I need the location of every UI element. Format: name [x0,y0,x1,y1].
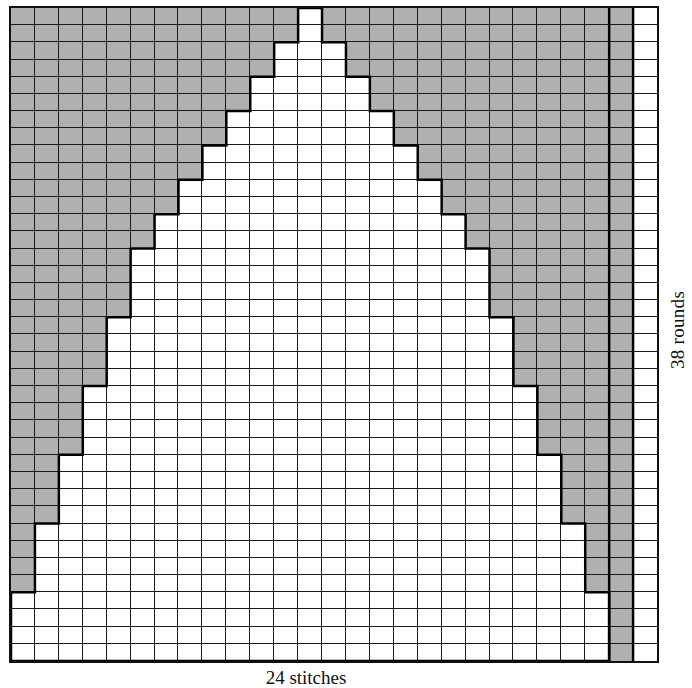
chart-cell-shaded [83,317,107,334]
chart-cell-white [178,317,202,334]
chart-cell-white [322,197,346,214]
chart-cell-white [107,317,131,334]
chart-cell-shaded [609,438,633,455]
chart-cell-shaded [442,94,466,111]
chart-cell-white [537,524,561,541]
chart-cell-shaded [35,25,59,42]
chart-cell-shaded [11,145,35,162]
chart-cell-shaded [585,180,609,197]
chart-cell-white [226,128,250,145]
chart-cell-shaded [107,300,131,317]
chart-cell-white [346,249,370,266]
chart-cell-white [490,489,514,506]
chart-cell-shaded [537,163,561,180]
chart-cell-shaded [202,128,226,145]
chart-cell-white [633,77,657,94]
chart-cell-white [466,438,490,455]
chart-cell-white [202,249,226,266]
chart-cell-white [466,575,490,592]
chart-cell-white [561,524,585,541]
chart-cell-white [155,283,179,300]
chart-cell-white [250,145,274,162]
chart-cell-white [513,627,537,644]
chart-cell-shaded [466,42,490,59]
chart-cell-white [155,214,179,231]
chart-cell-white [322,627,346,644]
chart-cell-shaded [107,163,131,180]
chart-cell-shaded [537,420,561,437]
chart-cell-white [633,472,657,489]
chart-cell-shaded [609,300,633,317]
chart-cell-white [274,249,298,266]
chart-cell-white [226,575,250,592]
chart-cell-white [394,163,418,180]
chart-cell-white [466,420,490,437]
chart-cell-white [322,386,346,403]
chart-cell-shaded [490,249,514,266]
chart-cell-white [250,524,274,541]
chart-cell-white [466,266,490,283]
chart-cell-white [490,317,514,334]
chart-cell-shaded [202,25,226,42]
chart-cell-shaded [59,334,83,351]
chart-cell-white [155,592,179,609]
chart-cell-shaded [561,128,585,145]
chart-cell-white [83,489,107,506]
chart-cell-shaded [609,94,633,111]
chart-cell-white [131,575,155,592]
chart-cell-white [490,438,514,455]
chart-cell-shaded [537,334,561,351]
chart-cell-white [322,266,346,283]
chart-cell-white [394,180,418,197]
chart-cell-white [202,403,226,420]
chart-cell-shaded [83,25,107,42]
chart-cell-shaded [59,60,83,77]
chart-cell-shaded [561,386,585,403]
chart-cell-white [107,524,131,541]
chart-cell-shaded [561,403,585,420]
chart-cell-shaded [490,231,514,248]
chart-cell-shaded [561,283,585,300]
chart-cell-shaded [131,60,155,77]
chart-cell-white [155,455,179,472]
chart-cell-shaded [561,42,585,59]
chart-cell-shaded [11,300,35,317]
chart-cell-white [59,541,83,558]
chart-cell-shaded [11,266,35,283]
chart-cell-white [202,438,226,455]
chart-cell-white [466,352,490,369]
chart-cell-shaded [11,524,35,541]
chart-cell-shaded [585,77,609,94]
chart-cell-white [466,472,490,489]
chart-cell-white [298,60,322,77]
chart-cell-shaded [83,266,107,283]
chart-cell-shaded [107,8,131,25]
chart-cell-shaded [513,249,537,266]
chart-cell-shaded [561,334,585,351]
chart-cell-shaded [11,42,35,59]
chart-cell-shaded [59,352,83,369]
chart-cell-white [202,352,226,369]
chart-cell-white [178,438,202,455]
chart-cell-white [322,163,346,180]
chart-cell-shaded [35,231,59,248]
chart-cell-white [537,472,561,489]
chart-cell-white [442,403,466,420]
chart-cell-white [107,541,131,558]
chart-cell-white [298,231,322,248]
chart-cell-white [370,214,394,231]
chart-cell-shaded [609,231,633,248]
chart-cell-shaded [561,25,585,42]
chart-cell-white [442,627,466,644]
chart-cell-white [250,94,274,111]
chart-cell-shaded [11,438,35,455]
chart-cell-white [274,145,298,162]
chart-cell-shaded [609,506,633,523]
chart-cell-white [418,541,442,558]
chart-cell-shaded [178,111,202,128]
chart-cell-shaded [59,128,83,145]
chart-cell-white [442,489,466,506]
chart-cell-white [466,455,490,472]
chart-cell-white [202,592,226,609]
chart-cell-white [322,352,346,369]
